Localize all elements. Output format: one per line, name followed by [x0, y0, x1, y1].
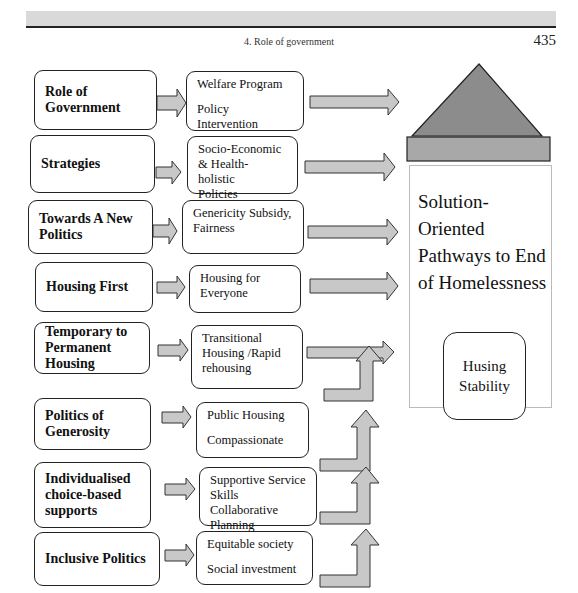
factor-box-temporary-to-permanent: Temporary to Permanent Housing: [34, 322, 150, 374]
arrow-icon: [158, 339, 188, 361]
arrow-icon: [162, 406, 191, 428]
goal-title-line: Solution-: [418, 188, 552, 215]
outcome-line: Husing: [459, 356, 510, 376]
action-line: Housing for: [200, 271, 290, 286]
roof-base: [407, 137, 550, 161]
action-line: rehousing: [202, 361, 292, 376]
action-box-7: Equitable society Social investment: [196, 531, 313, 585]
roof-icon: [412, 64, 542, 136]
outcome-line: Stability: [459, 376, 510, 396]
arrow-icon: [157, 89, 186, 117]
factor-label: Towards A New Politics: [39, 211, 142, 243]
factor-box-inclusive-politics: Inclusive Politics: [34, 532, 160, 586]
factor-label: Politics of Generosity: [45, 408, 140, 440]
factor-label: Strategies: [41, 156, 100, 172]
action-line: Housing /Rapid: [202, 346, 292, 361]
action-line: Compassionate: [207, 433, 298, 448]
arrow-icon: [310, 272, 398, 300]
arrow-up-icon: [320, 467, 379, 524]
arrow-up-icon: [320, 529, 379, 587]
outcome-box-housing-stability: Husing Stability: [443, 332, 526, 420]
factor-box-strategies: Strategies: [30, 135, 155, 193]
factor-box-role-of-government: Role of Government: [34, 70, 157, 130]
action-line: Public Housing: [207, 408, 298, 423]
action-box-5: Public Housing Compassionate: [196, 402, 309, 458]
factor-label: Inclusive Politics: [45, 551, 146, 567]
goal-title-line: of Homelessness: [418, 269, 552, 296]
action-line: Supportive Service: [210, 473, 306, 488]
arrow-icon: [305, 153, 395, 181]
action-line: Transitional: [202, 331, 292, 346]
factor-box-housing-first: Housing First: [35, 262, 153, 312]
arrow-up-icon: [320, 410, 379, 471]
action-box-0: Welfare Program Policy Intervention: [186, 71, 304, 131]
factor-label: Role of Government: [45, 84, 146, 116]
action-line: Social investment: [207, 562, 302, 577]
arrow-icon: [165, 478, 195, 500]
arrow-icon: [308, 219, 398, 245]
arrow-icon: [157, 276, 185, 299]
factor-box-individualised-supports: Individualised choice-based supports: [34, 462, 151, 528]
arrow-icon: [156, 161, 181, 184]
arrow-icon: [153, 218, 177, 244]
action-box-3: Housing for Everyone: [189, 265, 301, 313]
action-line: Policy Intervention: [197, 102, 293, 132]
action-line: Socio-Economic: [198, 142, 287, 157]
action-box-4: Transitional Housing /Rapid rehousing: [191, 325, 303, 389]
action-box-2: Genericity Subsidy, Fairness: [182, 200, 304, 254]
action-line: Skills Collaborative: [210, 488, 306, 518]
factor-label: Individualised choice-based supports: [45, 471, 140, 519]
action-line: & Health- holistic: [198, 157, 287, 187]
action-line: Fairness: [193, 221, 293, 236]
action-line: Equitable society: [207, 537, 302, 552]
factor-label: Housing First: [46, 279, 128, 295]
goal-title-line: Pathways to End: [418, 242, 552, 269]
factor-box-towards-new-politics: Towards A New Politics: [28, 200, 153, 254]
factor-box-politics-of-generosity: Politics of Generosity: [34, 398, 151, 450]
arrow-icon: [165, 544, 194, 566]
arrow-icon: [310, 89, 399, 115]
goal-title-line: Oriented: [418, 215, 552, 242]
factor-label: Temporary to Permanent Housing: [45, 324, 139, 372]
action-box-1: Socio-Economic & Health- holistic Polici…: [187, 136, 298, 194]
goal-title: Solution- Oriented Pathways to End of Ho…: [409, 188, 552, 296]
action-line: Welfare Program: [197, 77, 293, 92]
action-box-6: Supportive Service Skills Collaborative …: [199, 467, 317, 526]
action-line: Genericity Subsidy,: [193, 206, 293, 221]
action-line: Everyone: [200, 286, 290, 301]
